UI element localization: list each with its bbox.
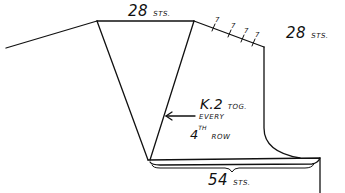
bottom-hem (148, 158, 320, 165)
shoulder-mark-1: 7 (215, 17, 220, 24)
shoulder-stitch-unit: STS. (311, 32, 328, 40)
bottom-stitch-unit: STS. (233, 179, 250, 187)
bottom-stitch-count: 54 (208, 171, 228, 189)
decrease-instruction-line3: 4TH ROW (190, 126, 230, 142)
decrease-row: ROW (212, 133, 231, 141)
decrease-th: TH (198, 124, 206, 131)
decrease-k2: K.2 (200, 96, 223, 112)
bottom-width-label: 54 STS. (208, 172, 251, 188)
decrease-instruction-line2: EVERY (199, 114, 224, 121)
right-edge-curve (264, 47, 300, 158)
shoulder-mark-3: 7 (244, 28, 249, 35)
top-stitch-unit: STS. (153, 10, 170, 18)
decrease-instruction-line1: K.2 TOG. (200, 96, 247, 112)
shoulder-mark-2: 7 (231, 23, 236, 30)
top-width-label: 28 STS. (128, 3, 171, 19)
top-stitch-count: 28 (128, 2, 148, 20)
shoulder-mark-4: 7 (255, 32, 260, 39)
shoulder-width-label: 28 STS. (286, 25, 329, 41)
triangle-right-line (150, 21, 194, 160)
triangle-left-line (97, 21, 148, 160)
decrease-tog: TOG. (228, 103, 247, 111)
left-slope-line (6, 21, 97, 48)
shoulder-stitch-count: 28 (286, 24, 306, 42)
